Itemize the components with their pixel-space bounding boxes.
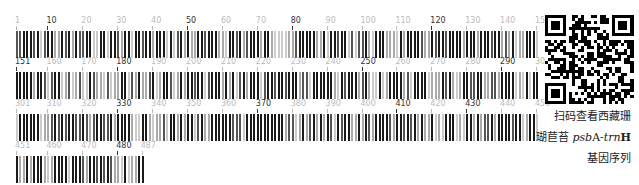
- base-bar: [410, 72, 412, 99]
- base-bar: [232, 72, 234, 99]
- base-bar: [100, 156, 102, 183]
- base-bar: [145, 31, 147, 58]
- tick-mark: [362, 109, 363, 113]
- base-bar: [40, 156, 42, 183]
- base-bar: [267, 72, 269, 99]
- base-bar: [452, 114, 454, 141]
- base-bar: [435, 114, 437, 141]
- base-bar: [344, 31, 346, 58]
- base-bar: [16, 156, 18, 183]
- base-bar: [79, 114, 81, 141]
- position-label: 280: [465, 57, 480, 66]
- base-bar: [103, 156, 105, 183]
- base-bar: [180, 31, 182, 58]
- base-bar: [187, 31, 189, 58]
- base-bar: [267, 114, 269, 141]
- base-bar: [128, 114, 130, 141]
- tick-mark: [431, 67, 432, 71]
- base-bar: [505, 31, 507, 58]
- base-bar: [323, 114, 325, 141]
- base-bar: [320, 31, 322, 58]
- base-bar: [295, 114, 297, 141]
- base-bar: [201, 31, 203, 58]
- base-bar: [501, 72, 503, 99]
- base-bar: [37, 31, 39, 58]
- base-bar: [100, 72, 102, 99]
- base-bar: [299, 31, 301, 58]
- base-bar: [79, 31, 81, 58]
- tick-mark: [292, 109, 293, 113]
- base-bar: [316, 31, 318, 58]
- base-bar: [16, 114, 18, 141]
- base-bar: [442, 114, 444, 141]
- base-bar: [470, 31, 472, 58]
- position-label: 60: [221, 16, 231, 25]
- base-bar: [278, 72, 280, 99]
- base-bar: [334, 72, 336, 99]
- base-bar: [250, 31, 252, 58]
- base-bar: [166, 114, 168, 141]
- position-label: 451: [15, 141, 30, 150]
- tick-mark: [16, 109, 17, 113]
- tick-mark: [327, 67, 328, 71]
- base-bar: [68, 72, 70, 99]
- base-bar: [145, 114, 147, 141]
- base-bar: [421, 114, 423, 141]
- base-bar: [89, 31, 91, 58]
- base-bar: [117, 156, 119, 183]
- base-bar: [152, 31, 154, 58]
- base-bar: [159, 31, 161, 58]
- base-bar: [93, 31, 95, 58]
- tick-mark: [327, 26, 328, 30]
- base-bar: [501, 31, 503, 58]
- base-bar: [355, 31, 357, 58]
- tick-mark: [396, 109, 397, 113]
- base-bar: [501, 114, 503, 141]
- base-bar: [44, 72, 46, 99]
- base-bar: [239, 72, 241, 99]
- base-bar: [72, 72, 74, 99]
- base-bar: [37, 114, 39, 141]
- base-bar: [170, 31, 172, 58]
- base-bar: [51, 72, 53, 99]
- base-bar: [285, 72, 287, 99]
- position-label: 80: [291, 16, 301, 25]
- base-bar: [194, 72, 196, 99]
- base-bar: [114, 31, 116, 58]
- base-bar: [197, 31, 199, 58]
- position-label: 90: [326, 16, 336, 25]
- base-bar: [75, 156, 77, 183]
- base-bar: [375, 114, 377, 141]
- base-bar: [281, 114, 283, 141]
- base-bar: [89, 156, 91, 183]
- base-bar: [344, 72, 346, 99]
- base-bar: [23, 72, 25, 99]
- base-bar: [47, 31, 49, 58]
- base-bar: [452, 31, 454, 58]
- base-bar: [100, 31, 102, 58]
- base-bar: [375, 72, 377, 99]
- tick-mark: [466, 67, 467, 71]
- base-bar: [536, 72, 538, 99]
- base-bar: [316, 114, 318, 141]
- base-bar: [194, 114, 196, 141]
- base-bar: [177, 31, 179, 58]
- base-bar: [44, 156, 46, 183]
- base-bar: [306, 72, 308, 99]
- base-bar: [449, 72, 451, 99]
- base-bar: [54, 156, 56, 183]
- base-bar: [484, 72, 486, 99]
- base-bar: [177, 114, 179, 141]
- base-bar: [491, 114, 493, 141]
- tick-mark: [362, 67, 363, 71]
- base-bar: [89, 72, 91, 99]
- tick-mark: [82, 151, 83, 155]
- base-bar: [107, 156, 109, 183]
- base-bar: [191, 72, 193, 99]
- base-bar: [211, 72, 213, 99]
- base-bar: [327, 72, 329, 99]
- base-bar: [410, 31, 412, 58]
- base-bar: [30, 114, 32, 141]
- base-bar: [358, 72, 360, 99]
- base-bar: [260, 31, 262, 58]
